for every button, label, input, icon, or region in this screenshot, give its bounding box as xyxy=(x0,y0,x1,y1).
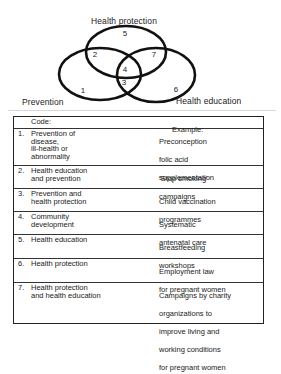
label-prevention: Prevention xyxy=(22,97,64,107)
table-row: 1.Prevention of disease, ill-health or a… xyxy=(14,128,263,165)
row-number: 6. xyxy=(18,260,31,282)
row-example: Campaigns by charity organizations to im… xyxy=(159,291,231,372)
row-code: Prevention and health protection xyxy=(31,190,86,211)
row-number: 3. xyxy=(18,190,31,211)
header-code: Code: xyxy=(18,118,51,128)
divider xyxy=(8,110,276,111)
table-row: 7.Health protection and health education… xyxy=(14,282,263,323)
row-number: 5. xyxy=(18,236,31,258)
table-row: 5.Health education Breastfeeding worksho… xyxy=(14,234,263,258)
code-example-table: Code: Example: 1.Prevention of disease, … xyxy=(13,116,264,324)
row-number: 2. xyxy=(18,167,31,188)
row-number: 1. xyxy=(18,130,31,165)
label-health-protection: Health protection xyxy=(91,16,157,26)
label-health-education: Health education xyxy=(176,96,241,106)
table-row: 6.Health protection Employment law for p… xyxy=(14,258,263,282)
region-1: 1 xyxy=(81,86,85,95)
row-number: 7. xyxy=(18,284,31,323)
table-row: 3.Prevention and health protection Child… xyxy=(14,188,263,211)
region-4: 4 xyxy=(123,65,127,74)
row-code: Health education and prevention xyxy=(31,167,87,188)
region-6: 6 xyxy=(174,85,178,94)
row-code: Health protection xyxy=(31,260,88,282)
row-code: Prevention of disease, ill-health or abn… xyxy=(31,130,75,165)
row-code: Community development xyxy=(31,213,74,234)
row-code: Health education xyxy=(31,236,87,258)
table-header: Code: Example: xyxy=(14,117,263,128)
region-5: 5 xyxy=(123,29,127,38)
region-3: 3 xyxy=(122,78,126,87)
region-2: 2 xyxy=(93,50,97,59)
region-7: 7 xyxy=(152,50,156,59)
table-row: 4.Community development Systematic anten… xyxy=(14,211,263,234)
table-row: 2.Health education and prevention ‘Stop … xyxy=(14,165,263,188)
row-code: Health protection and health education xyxy=(31,284,101,323)
row-number: 4. xyxy=(18,213,31,234)
